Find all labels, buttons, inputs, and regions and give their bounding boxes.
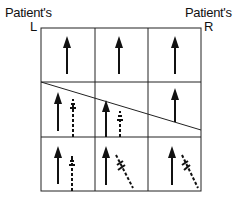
solid-arrow-icon: [171, 36, 179, 74]
dashed-arrow-icon: [69, 157, 75, 191]
solid-arrow-icon: [102, 100, 110, 137]
dashed-diagonal-arrow-icon: [182, 155, 198, 188]
solid-arrow-icon: [102, 146, 110, 185]
solid-arrow-icon: [54, 92, 62, 131]
solid-arrow-icon: [63, 36, 71, 74]
solid-arrow-icon: [54, 146, 62, 184]
dashed-arrow-icon: [117, 112, 123, 137]
diagonal-divider: [41, 82, 201, 130]
solid-arrow-icon: [171, 88, 179, 122]
dashed-diagonal-arrow-icon: [116, 155, 133, 188]
arrow-grid-diagram: [0, 0, 239, 198]
dashed-arrow-icon: [70, 100, 76, 137]
solid-arrow-icon: [168, 146, 176, 185]
solid-arrow-icon: [115, 36, 123, 74]
